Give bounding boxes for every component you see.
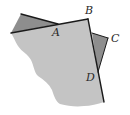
label-B: B [84, 4, 93, 17]
label-C: C [111, 32, 120, 45]
folded-paper-diagram: A B C D [0, 0, 130, 115]
label-D: D [85, 71, 95, 84]
label-A: A [51, 26, 60, 39]
